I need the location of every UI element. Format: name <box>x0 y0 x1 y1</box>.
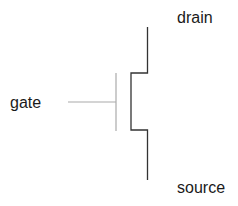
drain-label: drain <box>177 10 213 26</box>
gate-label: gate <box>10 95 41 111</box>
source-label: source <box>177 180 225 196</box>
drain-source-channel <box>131 27 148 180</box>
